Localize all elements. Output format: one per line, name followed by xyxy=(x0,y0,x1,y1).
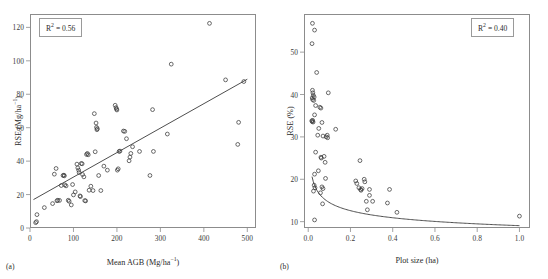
data-point xyxy=(151,108,155,112)
data-point xyxy=(52,172,56,176)
r-squared-value-b: = 0.40 xyxy=(486,24,507,33)
r-squared-box-b: R2 = 0.40 xyxy=(471,18,514,37)
data-point xyxy=(89,184,93,188)
data-point xyxy=(71,183,75,187)
data-point xyxy=(395,210,399,214)
scatter-plot-a xyxy=(0,0,274,279)
data-point xyxy=(127,159,131,163)
y-tick-label: 40 xyxy=(4,157,24,166)
x-axis-title-a-tail: ) xyxy=(177,258,180,267)
data-point xyxy=(323,160,327,164)
data-point xyxy=(358,159,362,163)
data-point xyxy=(364,199,368,203)
x-tick-label: 500 xyxy=(242,234,253,243)
data-point xyxy=(314,104,318,108)
data-point xyxy=(35,220,39,224)
data-point xyxy=(313,218,317,222)
data-point xyxy=(334,127,338,131)
data-point xyxy=(362,177,366,181)
panel-label-b: (b) xyxy=(280,262,289,271)
data-point xyxy=(313,113,317,117)
data-point xyxy=(319,106,323,110)
x-tick-label: 0.8 xyxy=(472,234,482,243)
x-tick-label: 0 xyxy=(28,234,32,243)
data-point xyxy=(363,180,367,184)
data-point xyxy=(236,143,240,147)
data-point xyxy=(75,162,79,166)
data-point xyxy=(311,21,315,25)
data-point xyxy=(324,177,328,181)
data-point xyxy=(518,214,522,218)
data-point xyxy=(319,191,323,195)
y-tick-label: 10 xyxy=(278,217,298,226)
data-point xyxy=(67,199,71,203)
y-tick-label: 60 xyxy=(4,123,24,132)
y-axis-title-a-sup: −1 xyxy=(12,99,18,105)
x-axis-title-a-main: Mean AGB (Mg/ha xyxy=(107,258,171,267)
data-point xyxy=(76,166,80,170)
data-point xyxy=(314,150,318,154)
data-point xyxy=(169,62,173,66)
data-point xyxy=(310,42,314,46)
x-tick-label: 400 xyxy=(198,234,209,243)
data-point xyxy=(313,28,317,32)
data-point xyxy=(368,193,372,197)
y-axis-title-a: RSE (Mg/ha−1) xyxy=(12,96,23,146)
panel-label-a: (a) xyxy=(6,262,14,271)
y-tick-label: 20 xyxy=(278,175,298,184)
data-point xyxy=(92,112,96,116)
y-tick-label: 120 xyxy=(4,23,24,32)
data-point xyxy=(138,150,142,154)
data-point xyxy=(128,155,132,159)
y-tick-label: 100 xyxy=(4,56,24,65)
data-point xyxy=(326,91,330,95)
data-point xyxy=(365,208,369,212)
data-point xyxy=(386,201,390,205)
data-point xyxy=(105,168,109,172)
data-point xyxy=(371,199,375,203)
x-tick-label: 0.4 xyxy=(388,234,398,243)
y-tick-label: 0 xyxy=(4,224,24,233)
data-point xyxy=(125,137,129,141)
scatter-plot-b xyxy=(274,0,548,279)
data-point xyxy=(113,103,117,107)
data-point xyxy=(91,189,95,193)
x-tick-label: 300 xyxy=(155,234,166,243)
data-point xyxy=(388,188,392,192)
panel-a: R2 = 0.56 Mean AGB (Mg/ha−1) RSE (Mg/ha−… xyxy=(0,0,274,279)
x-axis-title-b: Plot size (ha) xyxy=(395,256,438,265)
r-squared-box-a: R2 = 0.56 xyxy=(39,18,82,37)
data-point xyxy=(224,78,228,82)
x-tick-label: 200 xyxy=(111,234,122,243)
x-tick-label: 1.0 xyxy=(515,234,525,243)
data-point xyxy=(129,152,133,156)
data-point xyxy=(321,202,325,206)
x-axis-title-a: Mean AGB (Mg/ha−1) xyxy=(107,256,180,267)
data-point xyxy=(320,121,324,125)
figure-container: R2 = 0.56 Mean AGB (Mg/ha−1) RSE (Mg/ha−… xyxy=(0,0,548,279)
data-point xyxy=(316,133,320,137)
data-point xyxy=(208,21,212,25)
data-point xyxy=(87,188,91,192)
data-point xyxy=(316,169,320,173)
data-point xyxy=(165,132,169,136)
y-tick-label: 30 xyxy=(278,132,298,141)
y-tick-label: 40 xyxy=(278,90,298,99)
data-point xyxy=(313,172,317,176)
data-point xyxy=(69,203,73,207)
y-tick-label: 50 xyxy=(278,48,298,57)
data-point xyxy=(131,145,135,149)
data-point xyxy=(35,213,39,217)
data-point xyxy=(317,127,321,131)
data-point xyxy=(51,202,55,206)
data-point xyxy=(315,71,319,75)
data-point xyxy=(54,167,58,171)
panel-b: R2 = 0.40 Plot size (ha) RSE (%) (b) 0.0… xyxy=(274,0,548,279)
y-tick-label: 20 xyxy=(4,190,24,199)
data-point xyxy=(42,206,46,210)
data-point xyxy=(312,189,316,193)
data-point xyxy=(73,190,77,194)
x-tick-label: 100 xyxy=(68,234,79,243)
x-tick-label: 0.0 xyxy=(303,234,313,243)
r-squared-value-a: = 0.56 xyxy=(54,24,75,33)
